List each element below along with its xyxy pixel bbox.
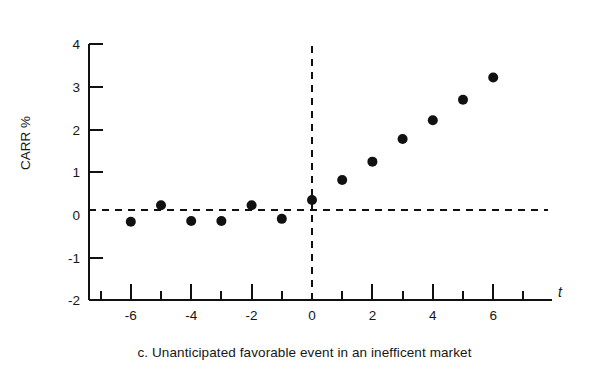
chart-axes — [89, 44, 553, 300]
y-tick-label: 4 — [52, 37, 80, 52]
y-tick-label: 1 — [52, 165, 80, 180]
data-point-series — [126, 73, 498, 227]
data-point — [428, 115, 438, 125]
data-point — [307, 195, 317, 205]
figure-caption: c. Unanticipated favorable event in an i… — [0, 345, 609, 360]
data-point — [126, 217, 136, 227]
reference-lines — [89, 46, 549, 300]
y-tick-label: -2 — [52, 293, 80, 308]
x-axis-title: t — [558, 284, 562, 300]
data-point — [398, 134, 408, 144]
data-point — [247, 200, 257, 210]
scatter-plot-canvas — [0, 0, 609, 386]
data-point — [277, 214, 287, 224]
x-tick-label: -6 — [125, 308, 137, 323]
x-tick-label: 6 — [489, 308, 497, 323]
data-point — [186, 216, 196, 226]
data-point — [488, 73, 498, 83]
x-tick-label: 4 — [429, 308, 437, 323]
y-axis-title: CARR % — [18, 116, 33, 170]
data-point — [458, 95, 468, 105]
y-tick-label: 3 — [52, 79, 80, 94]
y-tick-label: -1 — [52, 250, 80, 265]
y-tick-label: 0 — [52, 208, 80, 223]
chart-figure: CARR % t 43210-1-2 -6-4-20246 c. Unantic… — [0, 0, 609, 386]
x-tick-label: 2 — [369, 308, 377, 323]
data-point — [156, 200, 166, 210]
x-tick-label: -4 — [185, 308, 197, 323]
x-tick-label: -2 — [246, 308, 258, 323]
data-point — [337, 175, 347, 185]
data-point — [216, 216, 226, 226]
x-tick-label: 0 — [308, 308, 316, 323]
y-tick-label: 2 — [52, 122, 80, 137]
data-point — [367, 157, 377, 167]
